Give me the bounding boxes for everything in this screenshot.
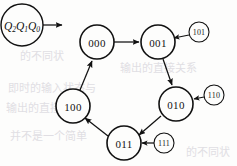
edge-i101-to-s001 (174, 35, 189, 38)
edge-i110-to-s010 (194, 97, 204, 99)
input-label-110: 110 (208, 91, 220, 100)
state-label-100: 100 (64, 101, 82, 113)
bleed-line-5: 输出的直接关系 (120, 61, 197, 74)
node-state-001[interactable]: 001 (141, 25, 175, 59)
node-state-100[interactable]: 100 (56, 89, 90, 123)
state-label-010: 010 (167, 99, 185, 111)
bleed-line-1: 的不同状 (20, 49, 64, 62)
input-label-111: 111 (158, 139, 170, 148)
state-label-000: 000 (88, 37, 106, 49)
input-label-101: 101 (193, 28, 206, 37)
edge-s011-to-s100 (85, 118, 108, 136)
state-label-011: 011 (116, 138, 133, 150)
node-legend-q2q1q0[interactable]: Q2Q1Q0 (1, 4, 43, 46)
legend-circle-label: Q2Q1Q0 (4, 20, 40, 34)
figure-canvas: 的不同状 即时的输入状态与 输出的直接关系 并不是一个简单 输出的直接关系 的不… (0, 0, 237, 166)
node-state-010[interactable]: 010 (159, 87, 193, 121)
bleed-line-6: 的不同状 (186, 145, 230, 158)
node-state-000[interactable]: 000 (80, 25, 114, 59)
node-input-111[interactable]: 111 (154, 133, 174, 153)
state-label-001: 001 (149, 37, 166, 49)
bleed-line-4: 并不是一个简单 (10, 129, 87, 142)
node-state-011[interactable]: 011 (107, 126, 141, 160)
state-transition-diagram: 的不同状 即时的输入状态与 输出的直接关系 并不是一个简单 输出的直接关系 的不… (0, 0, 237, 166)
edge-s010-to-s011 (139, 116, 161, 135)
node-input-110[interactable]: 110 (204, 85, 224, 105)
node-input-101[interactable]: 101 (189, 22, 209, 42)
